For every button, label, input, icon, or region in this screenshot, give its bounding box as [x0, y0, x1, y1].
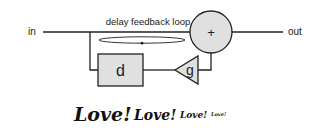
loop-direction-arrow	[99, 37, 185, 45]
output-label: out	[288, 26, 302, 37]
summer-node: +	[190, 11, 232, 53]
diagram-title: delay feedback loop	[106, 16, 191, 27]
love-caption: Love! Love! Love! Love!	[73, 103, 226, 125]
delay-label: d	[116, 62, 125, 79]
delay-feedback-diagram: in delay feedback loop + out d g Love! L…	[0, 0, 319, 135]
love-word-tiny: Love!	[210, 111, 226, 117]
gain-block: g	[175, 56, 198, 84]
love-word-large: Love!	[73, 103, 132, 125]
plus-icon: +	[207, 25, 215, 40]
love-word-small: Love!	[179, 110, 207, 120]
gain-label: g	[186, 62, 194, 78]
branch-to-delay-line	[90, 32, 98, 70]
arrowhead-icon	[141, 42, 144, 45]
delay-block: d	[98, 54, 143, 86]
gain-to-summer-line	[198, 53, 211, 70]
love-word-medium: Love!	[133, 107, 176, 123]
input-label: in	[28, 26, 36, 37]
